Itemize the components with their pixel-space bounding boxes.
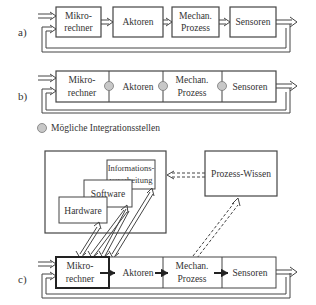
block-mechan-label-2: Prozess bbox=[177, 274, 206, 284]
block-mikrorechner-label: Mikro- bbox=[65, 11, 92, 21]
block-mikrorechner-label: Mikro- bbox=[69, 75, 96, 85]
block-mechan-label: Mechan. bbox=[176, 261, 209, 271]
arrow-double bbox=[163, 18, 172, 26]
block-mikrorechner-label-2: rechner bbox=[66, 274, 95, 284]
integration-point-circle bbox=[218, 82, 227, 91]
output-arrow bbox=[276, 17, 297, 27]
process-feedback-arrow bbox=[193, 203, 238, 258]
panel-c: c) Informations- verarbeitung Software H… bbox=[18, 151, 297, 298]
block-aktoren-label: Aktoren bbox=[122, 17, 153, 27]
prozess-wissen-label: Prozess-Wissen bbox=[211, 169, 271, 179]
panel-a-label: a) bbox=[18, 26, 27, 39]
panel-b: b) Mikro- rechner Aktoren Mechan. Prozes… bbox=[18, 71, 297, 133]
block-aktoren-label: Aktoren bbox=[122, 82, 153, 92]
arrow-double bbox=[101, 18, 113, 26]
layer-hardware-label: Hardware bbox=[64, 206, 101, 216]
block-aktoren-label: Aktoren bbox=[122, 268, 153, 278]
knowledge-arrowhead bbox=[167, 171, 174, 179]
legend-text: Mögliche Integrationsstellen bbox=[51, 123, 160, 133]
block-mikrorechner-label-2: rechner bbox=[64, 23, 93, 33]
integration-point-circle bbox=[159, 82, 168, 91]
block-sensoren-label: Sensoren bbox=[233, 82, 268, 92]
block-mechan-label: Mechan. bbox=[179, 11, 212, 21]
arrow-double bbox=[219, 18, 230, 26]
legend-circle-icon bbox=[38, 124, 47, 133]
block-sensoren-label: Sensoren bbox=[236, 17, 271, 27]
layer-info-label: Informations- bbox=[108, 163, 155, 173]
block-mechan-label-2: Prozess bbox=[177, 88, 206, 98]
panel-a: a) Mikro- rechner Aktoren Mechan. Prozes… bbox=[18, 7, 297, 52]
integration-point-circle bbox=[105, 82, 114, 91]
panel-c-label: c) bbox=[18, 273, 27, 286]
output-arrow bbox=[276, 267, 297, 277]
block-mechan-label-2: Prozess bbox=[181, 23, 210, 33]
mechatronics-diagram: a) Mikro- rechner Aktoren Mechan. Prozes… bbox=[0, 0, 316, 305]
knowledge-arrow bbox=[172, 173, 205, 177]
block-mikrorechner-label-2: rechner bbox=[68, 88, 97, 98]
panel-b-label: b) bbox=[18, 90, 28, 103]
block-mechan-label: Mechan. bbox=[176, 75, 209, 85]
output-arrow bbox=[276, 81, 297, 91]
block-sensoren-label: Sensoren bbox=[233, 268, 268, 278]
block-mikrorechner-label: Mikro- bbox=[67, 261, 94, 271]
